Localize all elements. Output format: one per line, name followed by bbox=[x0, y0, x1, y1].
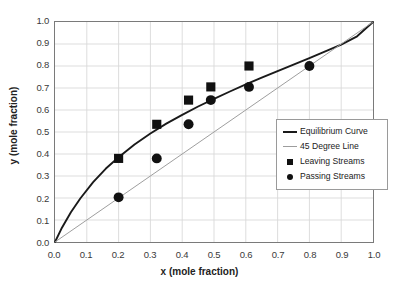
x-tick-label: 0.7 bbox=[265, 249, 291, 260]
y-tick-label: 1.0 bbox=[23, 15, 49, 26]
marker-leaving-stream bbox=[114, 154, 123, 163]
legend-key-circle-icon-glyph bbox=[287, 174, 293, 180]
legend-key-equilibrium-line-icon bbox=[282, 131, 297, 133]
marker-passing-stream bbox=[114, 192, 124, 202]
x-tick-label: 0.1 bbox=[73, 249, 99, 260]
y-tick-label: 0.6 bbox=[23, 104, 49, 115]
marker-leaving-stream bbox=[206, 82, 215, 91]
y-tick-label: 0.3 bbox=[23, 170, 49, 181]
y-tick-label: 0.9 bbox=[23, 37, 49, 48]
equilibrium-stage-chart: y (mole fraction) 0.00.10.20.30.40.50.60… bbox=[0, 0, 399, 287]
x-axis-label: x (mole fraction) bbox=[0, 266, 399, 277]
y-tick-label: 0.5 bbox=[23, 126, 49, 137]
y-tick-label: 0.0 bbox=[23, 237, 49, 248]
marker-leaving-stream bbox=[152, 120, 161, 129]
x-tick-label: 0.2 bbox=[105, 249, 131, 260]
marker-leaving-stream bbox=[184, 96, 193, 105]
y-tick-label: 0.2 bbox=[23, 193, 49, 204]
legend-item-label: 45 Degree Line bbox=[300, 142, 359, 151]
legend-key-diagonal-line-icon bbox=[282, 146, 297, 147]
y-axis-label: y (mole fraction) bbox=[8, 61, 19, 191]
legend-item[interactable]: Leaving Streams bbox=[282, 154, 382, 169]
legend-item[interactable]: Equilibrium Curve bbox=[282, 124, 382, 139]
legend-item-label: Equilibrium Curve bbox=[300, 127, 368, 136]
chart-legend[interactable]: Equilibrium Curve45 Degree LineLeaving S… bbox=[276, 119, 388, 190]
legend-key-circle-icon bbox=[282, 174, 297, 180]
legend-key-equilibrium-line-icon-glyph bbox=[283, 131, 297, 133]
y-tick-label: 0.1 bbox=[23, 215, 49, 226]
marker-passing-stream bbox=[184, 119, 194, 129]
marker-passing-stream bbox=[152, 153, 162, 163]
legend-key-square-icon-glyph bbox=[287, 159, 293, 165]
marker-leaving-stream bbox=[244, 61, 253, 70]
x-tick-label: 0.5 bbox=[201, 249, 227, 260]
x-tick-label: 0.6 bbox=[233, 249, 259, 260]
legend-key-square-icon bbox=[282, 159, 297, 165]
y-tick-label: 0.7 bbox=[23, 82, 49, 93]
legend-item-label: Passing Streams bbox=[300, 172, 365, 181]
marker-passing-stream bbox=[304, 61, 314, 71]
legend-item[interactable]: 45 Degree Line bbox=[282, 139, 382, 154]
marker-passing-stream bbox=[206, 95, 216, 105]
marker-passing-stream bbox=[244, 82, 254, 92]
legend-key-diagonal-line-icon-glyph bbox=[283, 146, 297, 147]
x-tick-label: 0.4 bbox=[169, 249, 195, 260]
x-tick-label: 0.0 bbox=[41, 249, 67, 260]
y-tick-label: 0.8 bbox=[23, 59, 49, 70]
legend-item[interactable]: Passing Streams bbox=[282, 169, 382, 184]
y-tick-label: 0.4 bbox=[23, 148, 49, 159]
legend-item-label: Leaving Streams bbox=[300, 157, 365, 166]
x-tick-label: 1.0 bbox=[361, 249, 387, 260]
x-tick-label: 0.8 bbox=[297, 249, 323, 260]
x-tick-label: 0.3 bbox=[137, 249, 163, 260]
x-tick-label: 0.9 bbox=[329, 249, 355, 260]
